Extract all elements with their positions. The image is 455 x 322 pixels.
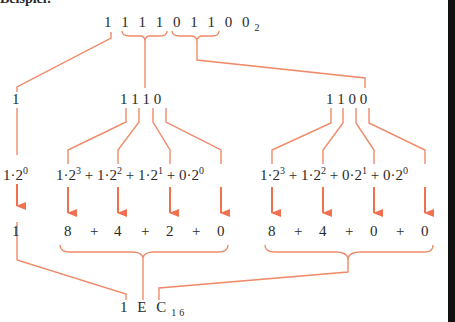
hex-result: 1 E C16 <box>120 300 187 315</box>
nibble-1: 1 <box>12 92 20 107</box>
value-3-0: 8 <box>268 224 276 239</box>
value-2-2: 2 <box>166 224 174 239</box>
value-3-3: 0 <box>421 224 429 239</box>
expansion-3: 1·23 + 1·22 + 0·21 + 0·20 <box>260 168 408 183</box>
hex-base: 16 <box>171 307 187 318</box>
value-2-3: 0 <box>217 224 225 239</box>
binary-base: 2 <box>255 22 263 33</box>
expansion-2: 1·23 + 1·22 + 1·21 + 0·20 <box>56 168 204 183</box>
plus: + <box>141 224 149 239</box>
value-1: 1 <box>12 224 20 239</box>
page-edge <box>448 0 455 322</box>
connector-lines <box>0 0 455 322</box>
nibble-3: 1 1 0 0 <box>326 92 367 107</box>
binary-digits: 1 1 1 1 0 1 1 0 0 <box>104 14 253 30</box>
plus: + <box>192 224 200 239</box>
expansion-1: 1·20 <box>3 168 28 183</box>
nibble-2: 1 1 1 0 <box>120 92 161 107</box>
plus: + <box>294 224 302 239</box>
value-3-1: 4 <box>319 224 327 239</box>
plus: + <box>90 224 98 239</box>
plus: + <box>396 224 404 239</box>
value-2-0: 8 <box>64 224 72 239</box>
value-3-2: 0 <box>370 224 378 239</box>
binary-number: 1 1 1 1 0 1 1 0 02 <box>104 15 263 30</box>
hex-digits: 1 E C <box>120 299 169 315</box>
plus: + <box>345 224 353 239</box>
value-2-1: 4 <box>114 224 122 239</box>
